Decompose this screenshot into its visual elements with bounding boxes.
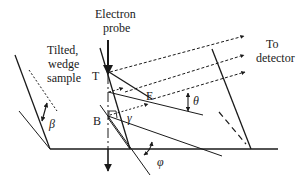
point-e-label: E: [146, 89, 153, 103]
wedge-diagram: Electron probe Tilted, wedge sample To d…: [0, 0, 307, 179]
sample-label-line2: wedge: [48, 57, 79, 71]
point-t-label: T: [92, 69, 100, 83]
wedge-left-face: [15, 55, 50, 149]
probe-label-line1: Electron: [95, 7, 136, 21]
detector-label-line2: detector: [256, 51, 295, 65]
detector-label-line1: To: [266, 37, 279, 51]
probe-label-line2: probe: [103, 21, 130, 35]
xray-path-3: [153, 72, 245, 99]
beta-arrow: [42, 103, 47, 121]
sample-label-line3: sample: [47, 71, 81, 85]
sample-label-line1: Tilted,: [47, 43, 78, 57]
point-b-label: B: [93, 114, 101, 128]
sample-right-dashed: [219, 112, 246, 144]
sample-face: [100, 48, 130, 149]
wedge-left-inner: [19, 111, 50, 149]
gamma-label: γ: [127, 111, 132, 125]
xray-path-e-to-t: [109, 88, 123, 92]
xray-path-1: [110, 36, 244, 72]
phi-reference-line: [108, 116, 222, 156]
theta-label: θ: [193, 94, 199, 108]
phi-label: φ: [157, 155, 164, 169]
sample-right-face: [212, 49, 251, 149]
beta-label: β: [48, 117, 55, 131]
